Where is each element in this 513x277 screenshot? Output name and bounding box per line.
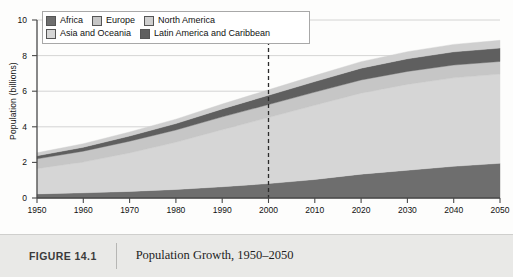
figure-caption-bar: FIGURE 14.1 Population Growth, 1950–2050	[0, 234, 513, 277]
legend-label-latin-america-and-caribbean: Latin America and Caribbean	[154, 29, 270, 38]
legend-entry-latin-america-and-caribbean: Latin America and Caribbean	[140, 29, 270, 39]
caption-divider	[116, 243, 117, 269]
legend-entry-europe: Europe	[92, 16, 135, 26]
legend-swatch-north-america	[144, 16, 154, 26]
legend-label-north-america: North America	[158, 16, 215, 25]
y-tick-label-10: 10	[7, 15, 27, 25]
x-tick-label-1970: 1970	[113, 205, 147, 215]
x-tick-label-2020: 2020	[344, 205, 378, 215]
y-tick-label-8: 8	[7, 51, 27, 61]
x-tick-label-2000: 2000	[252, 205, 286, 215]
figure-number-label: FIGURE 14.1	[29, 250, 97, 262]
y-tick-label-4: 4	[7, 122, 27, 132]
chart-legend: Africa Europe North America Asia and Oce…	[42, 11, 310, 44]
x-tick-label-1950: 1950	[20, 205, 54, 215]
y-tick-label-0: 0	[7, 193, 27, 203]
x-tick-label-1980: 1980	[159, 205, 193, 215]
legend-entry-asia-and-oceania: Asia and Oceania	[46, 29, 131, 39]
legend-swatch-europe	[92, 16, 102, 26]
x-tick-label-2050: 2050	[483, 205, 513, 215]
x-tick-label-1960: 1960	[66, 205, 100, 215]
legend-swatch-africa	[46, 16, 56, 26]
y-tick-label-6: 6	[7, 86, 27, 96]
x-tick-label-1990: 1990	[205, 205, 239, 215]
x-tick-label-2010: 2010	[298, 205, 332, 215]
x-tick-label-2030: 2030	[390, 205, 424, 215]
legend-swatch-asia-and-oceania	[46, 29, 56, 39]
legend-row: Africa Europe North America	[46, 14, 306, 27]
legend-row: Asia and Oceania Latin America and Carib…	[46, 27, 306, 40]
legend-label-asia-and-oceania: Asia and Oceania	[60, 29, 131, 38]
legend-entry-north-america: North America	[144, 16, 215, 26]
legend-entry-africa: Africa	[46, 16, 83, 26]
y-tick-label-2: 2	[7, 157, 27, 167]
figure-caption-title: Population Growth, 1950–2050	[136, 248, 294, 263]
x-tick-label-2040: 2040	[437, 205, 471, 215]
chart-plot-area: Population (billions) Africa Europe Nort…	[0, 0, 513, 232]
legend-swatch-latin-america-and-caribbean	[140, 29, 150, 39]
legend-label-africa: Africa	[60, 16, 83, 25]
figure-container: Population (billions) Africa Europe Nort…	[0, 0, 513, 277]
legend-label-europe: Europe	[106, 16, 135, 25]
caption-top-rule	[0, 234, 513, 235]
